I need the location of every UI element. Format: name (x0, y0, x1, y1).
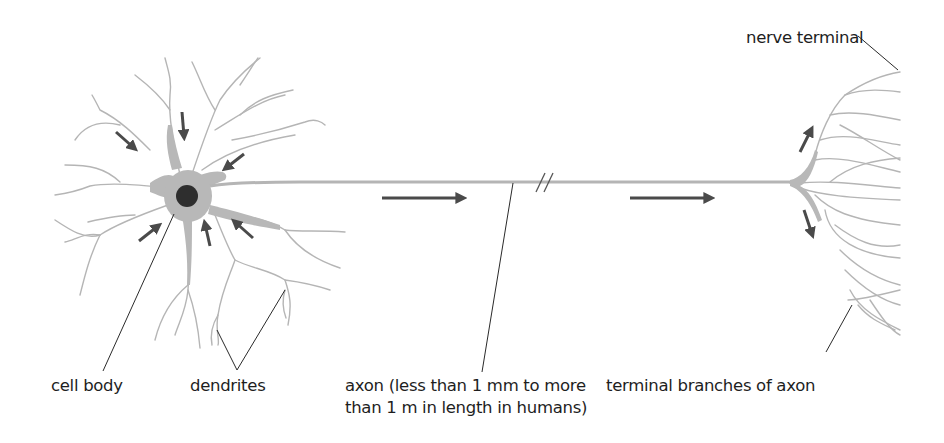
label-cell-body: cell body (51, 376, 123, 396)
arrow-icon (139, 226, 158, 241)
neuron-diagram: cell body dendrites axon (less than 1 mm… (0, 0, 944, 443)
arrow-icon (182, 112, 184, 136)
cell-body-shape (150, 125, 280, 285)
label-nerve-terminal: nerve terminal (746, 28, 863, 48)
terminal-branches-icon (790, 72, 900, 335)
label-terminal-branches: terminal branches of axon (606, 376, 815, 396)
label-axon-line2: than 1 m in length in humans) (345, 398, 587, 418)
arrow-icon (116, 132, 134, 148)
terminal-base-shape (790, 150, 822, 222)
label-axon-line1: axon (less than 1 mm to more (345, 376, 586, 396)
arrow-icon (205, 224, 210, 246)
axon-shape (210, 173, 790, 192)
leader-lines (103, 36, 898, 372)
label-dendrites: dendrites (190, 376, 265, 396)
arrow-icon (226, 154, 244, 168)
arrow-icon (800, 130, 811, 152)
nucleus-icon (176, 185, 198, 207)
arrow-icon (804, 210, 812, 234)
